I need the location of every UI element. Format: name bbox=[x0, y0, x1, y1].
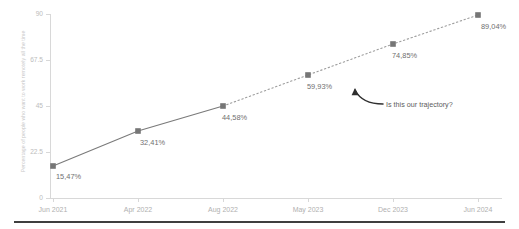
data-point-marker bbox=[390, 41, 396, 47]
chart-container: Percentage of people who want to work re… bbox=[0, 0, 519, 229]
data-label-6: 89,04% bbox=[481, 22, 506, 31]
data-label-3: 44,58% bbox=[222, 113, 247, 122]
data-point-marker bbox=[475, 12, 481, 18]
data-point-marker bbox=[220, 103, 226, 109]
data-label-5: 74,85% bbox=[392, 51, 417, 60]
plot-area bbox=[0, 0, 519, 229]
data-label-4: 59,93% bbox=[307, 82, 332, 91]
data-point-marker bbox=[135, 128, 141, 134]
bottom-divider bbox=[14, 221, 505, 223]
annotation-text: Is this our trajectory? bbox=[386, 100, 453, 109]
data-point-marker bbox=[305, 72, 311, 78]
series-projected-line bbox=[223, 15, 478, 106]
data-label-2: 32,41% bbox=[140, 138, 165, 147]
data-label-1: 15,47% bbox=[56, 172, 81, 181]
series-actual-line bbox=[53, 106, 223, 166]
data-point-marker bbox=[50, 163, 56, 169]
annotation-arrow-icon bbox=[352, 88, 383, 104]
